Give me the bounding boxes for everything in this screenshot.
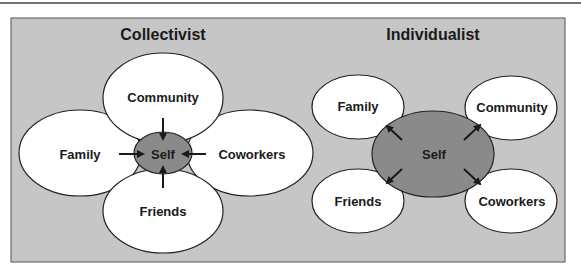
collectivist-self-label: Self xyxy=(151,147,176,162)
collectivist-coworkers-label: Coworkers xyxy=(218,147,285,162)
collectivist-individualist-diagram: Collectivist Community Family Coworkers … xyxy=(0,0,581,276)
individualist-family-label: Family xyxy=(337,99,379,114)
individualist-title: Individualist xyxy=(386,26,480,43)
collectivist-community-label: Community xyxy=(127,90,199,105)
individualist-community-label: Community xyxy=(476,100,548,115)
individualist-friends-label: Friends xyxy=(335,194,382,209)
collectivist-family-label: Family xyxy=(59,147,101,162)
individualist-self-label: Self xyxy=(422,147,447,162)
collectivist-friends-label: Friends xyxy=(140,204,187,219)
collectivist-title: Collectivist xyxy=(120,26,206,43)
individualist-coworkers-label: Coworkers xyxy=(478,194,545,209)
